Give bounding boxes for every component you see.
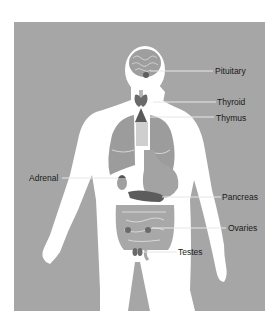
label-thyroid: Thyroid	[217, 97, 245, 107]
testis-left-icon	[133, 248, 138, 256]
label-ovaries: Ovaries	[228, 223, 257, 233]
diagram-panel: Pituitary Thyroid Thymus Adrenal Pancrea…	[14, 22, 265, 311]
heart-area-icon	[136, 122, 148, 146]
kidney-icon	[117, 176, 127, 190]
ovary-right-icon	[145, 227, 151, 233]
label-pancreas: Pancreas	[222, 192, 258, 202]
pituitary-gland-icon	[143, 72, 149, 78]
testis-right-icon	[138, 248, 143, 256]
label-adrenal: Adrenal	[29, 173, 58, 183]
label-thymus: Thymus	[216, 113, 246, 123]
ovary-left-icon	[125, 227, 131, 233]
label-pituitary: Pituitary	[215, 66, 246, 76]
label-testes: Testes	[178, 247, 203, 257]
